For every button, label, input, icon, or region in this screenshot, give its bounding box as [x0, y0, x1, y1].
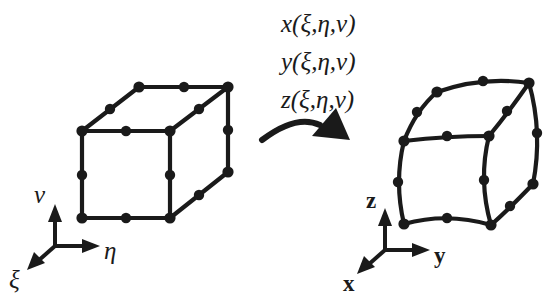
- ref-node-corner: [222, 81, 233, 92]
- axis-label-nu: ν: [34, 181, 46, 208]
- phys-node-corner: [431, 86, 442, 97]
- ref-node-midedge: [77, 170, 87, 180]
- phys-node-corner: [483, 130, 494, 141]
- ref-node-corner: [133, 81, 144, 92]
- ref-node-midedge: [121, 126, 131, 136]
- eta-axis-arrowhead: [82, 239, 100, 253]
- figure-canvas: x(ξ,η,ν) y(ξ,η,ν) z(ξ,η,ν): [0, 0, 553, 297]
- phys-node-midedge: [502, 106, 512, 116]
- physical-coordinate-triad: z y x: [343, 188, 446, 296]
- phys-node-corner: [485, 219, 496, 230]
- axis-label-xi: ξ: [9, 266, 20, 293]
- phys-node-midedge: [532, 128, 542, 138]
- phys-node-midedge: [393, 177, 403, 187]
- mapping-functions-text: x(ξ,η,ν) y(ξ,η,ν) z(ξ,η,ν): [278, 10, 355, 114]
- physical-element: [393, 76, 542, 231]
- phys-node-corner: [398, 218, 409, 229]
- y-axis-arrowhead: [412, 243, 430, 257]
- z-axis-arrowhead: [378, 208, 392, 226]
- reference-element: [76, 81, 233, 223]
- ref-node-corner: [164, 125, 175, 136]
- ref-node-midedge: [194, 104, 204, 114]
- ref-node-corner: [76, 212, 87, 223]
- ref-node-midedge: [223, 125, 233, 135]
- ref-node-midedge: [179, 82, 189, 92]
- ref-node-corner: [222, 166, 233, 177]
- mapping-arrow-shaft: [262, 122, 320, 140]
- mapping-function-z: z(ξ,η,ν): [280, 86, 354, 114]
- phys-node-midedge: [442, 131, 452, 141]
- ref-node-corner: [76, 125, 87, 136]
- mapping-function-y: y(ξ,η,ν): [278, 48, 355, 76]
- phys-node-corner: [527, 178, 538, 189]
- ref-node-corner: [164, 212, 175, 223]
- phys-node-corner: [523, 77, 534, 88]
- ref-node-midedge: [194, 190, 204, 200]
- natural-coordinate-triad: ν η ξ: [9, 181, 116, 293]
- ref-node-midedge: [121, 213, 131, 223]
- phys-node-midedge: [479, 175, 489, 185]
- axis-label-y: y: [434, 243, 446, 268]
- phys-node-midedge: [442, 213, 452, 223]
- ref-node-midedge: [165, 170, 175, 180]
- phys-node-midedge: [412, 107, 422, 117]
- ref-node-midedge: [105, 104, 115, 114]
- mapping-function-x: x(ξ,η,ν): [280, 10, 355, 38]
- phys-node-midedge: [505, 201, 515, 211]
- phys-edge-depth-top-left: [404, 92, 437, 141]
- figure-root: x(ξ,η,ν) y(ξ,η,ν) z(ξ,η,ν): [0, 0, 553, 297]
- axis-label-z: z: [366, 188, 376, 213]
- nu-axis-arrowhead: [48, 204, 62, 222]
- axis-label-x: x: [343, 271, 355, 296]
- axis-label-eta: η: [104, 237, 116, 264]
- phys-node-midedge: [478, 76, 488, 86]
- phys-node-corner: [398, 135, 409, 146]
